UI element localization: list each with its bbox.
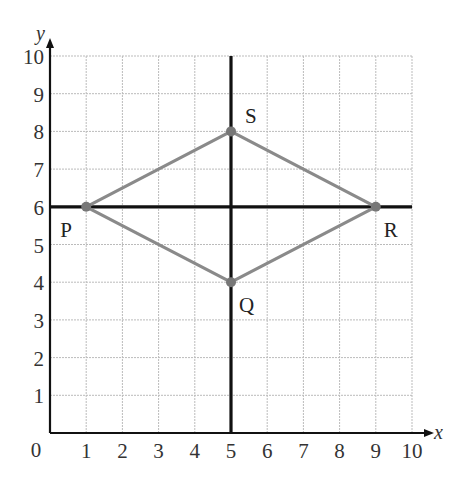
point-label-Q: Q xyxy=(239,293,254,317)
x-axis-label: x xyxy=(433,421,443,443)
x-tick-label: 4 xyxy=(190,439,201,463)
y-tick-label: 4 xyxy=(34,271,45,295)
y-axis-arrow-icon xyxy=(46,38,54,48)
x-tick-label: 2 xyxy=(117,439,128,463)
point-S xyxy=(226,126,236,136)
x-tick-label: 10 xyxy=(402,439,423,463)
y-axis-label: y xyxy=(34,22,45,45)
x-axis-arrow-icon xyxy=(424,429,434,437)
x-tick-label: 7 xyxy=(298,439,309,463)
y-tick-label: 10 xyxy=(23,45,44,69)
x-tick-label: 3 xyxy=(153,439,164,463)
x-tick-label: 5 xyxy=(226,439,237,463)
point-P xyxy=(81,202,91,212)
tick-labels: 01234567891012345678910 xyxy=(23,45,423,463)
point-label-S: S xyxy=(245,104,257,128)
y-tick-label: 3 xyxy=(34,309,45,333)
points: PQRS xyxy=(60,104,398,317)
coordinate-plane: xy 01234567891012345678910 PQRS xyxy=(0,0,451,478)
y-tick-label: 5 xyxy=(34,234,45,258)
point-Q xyxy=(226,277,236,287)
x-tick-label: 1 xyxy=(81,439,92,463)
y-tick-label: 2 xyxy=(34,347,45,371)
origin-label: 0 xyxy=(31,438,42,462)
point-label-R: R xyxy=(384,218,398,242)
y-tick-label: 9 xyxy=(34,83,45,107)
y-tick-label: 8 xyxy=(34,120,45,144)
x-tick-label: 8 xyxy=(334,439,345,463)
axes: xy xyxy=(34,22,443,443)
x-tick-label: 6 xyxy=(262,439,273,463)
point-R xyxy=(371,202,381,212)
x-tick-label: 9 xyxy=(371,439,382,463)
y-tick-label: 6 xyxy=(34,196,45,220)
y-tick-label: 1 xyxy=(34,384,45,408)
y-tick-label: 7 xyxy=(34,158,45,182)
point-label-P: P xyxy=(60,218,72,242)
